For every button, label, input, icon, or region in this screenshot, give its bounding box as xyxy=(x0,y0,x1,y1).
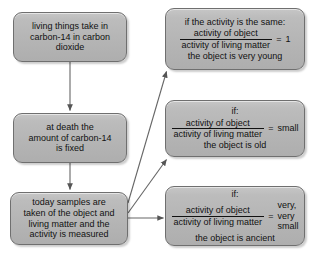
arrow-sampling-to-old xyxy=(128,160,167,214)
young-denominator: activity of living matter xyxy=(180,39,273,50)
ancient-result-line-2: very xyxy=(277,211,294,221)
old-equation: activity of object activity of living ma… xyxy=(170,118,300,139)
outcome-box-old: if: activity of object activity of livin… xyxy=(165,100,305,157)
process-box-intake: living things take in carbon-14 in carbo… xyxy=(13,12,127,62)
young-equals-sign: = xyxy=(276,34,281,45)
process-box-sampling: today samples are taken of the object an… xyxy=(10,192,128,245)
ancient-denominator: activity of living matter xyxy=(172,216,265,227)
death-line-3: is fixed xyxy=(56,143,84,154)
outcome-box-very-young: if the activity is the same: activity of… xyxy=(165,8,305,70)
young-fraction: activity of object activity of living ma… xyxy=(180,28,273,49)
old-result: small xyxy=(277,123,298,134)
ancient-fraction: activity of object activity of living ma… xyxy=(172,205,265,226)
young-caption-top: if the activity is the same: xyxy=(185,17,286,28)
ancient-equals-sign: = xyxy=(268,211,273,222)
arrow-sampling-to-young xyxy=(128,72,167,204)
sampling-line-2: taken of the object and xyxy=(23,208,114,219)
old-fraction: activity of object activity of living ma… xyxy=(172,118,265,139)
ancient-result-line-1: very, xyxy=(277,200,296,210)
ancient-numerator: activity of object xyxy=(184,205,252,215)
outcome-box-ancient: if: activity of object activity of livin… xyxy=(165,186,305,246)
ancient-equation: activity of object activity of living ma… xyxy=(170,200,300,231)
old-numerator: activity of object xyxy=(184,118,252,128)
sampling-line-3: living matter and the xyxy=(28,219,109,230)
sampling-line-1: today samples are xyxy=(32,197,106,208)
young-equation: activity of object activity of living ma… xyxy=(170,28,300,49)
sampling-line-4: activity is measured xyxy=(29,229,108,240)
young-caption-bottom: the object is very young xyxy=(188,51,283,62)
intake-line-2: carbon-14 in carbon xyxy=(30,32,110,43)
intake-line-3: dioxide xyxy=(56,42,85,53)
ancient-caption-top: if: xyxy=(231,189,238,200)
process-box-death: at death the amount of carbon-14 is fixe… xyxy=(13,113,127,163)
death-line-1: at death the xyxy=(46,122,94,133)
ancient-result-line-3: small xyxy=(277,221,298,231)
flowchart-canvas: living things take in carbon-14 in carbo… xyxy=(0,0,311,260)
old-equals-sign: = xyxy=(268,123,273,134)
young-numerator: activity of object xyxy=(192,28,260,38)
young-result: 1 xyxy=(285,34,290,45)
intake-line-1: living things take in xyxy=(32,21,108,32)
old-caption-top: if: xyxy=(231,106,238,117)
old-caption-bottom: the object is old xyxy=(204,140,267,151)
ancient-result: very, very small xyxy=(277,200,298,231)
death-line-2: amount of carbon-14 xyxy=(28,133,111,144)
old-denominator: activity of living matter xyxy=(172,128,265,139)
ancient-caption-bottom: the object is ancient xyxy=(195,233,275,244)
